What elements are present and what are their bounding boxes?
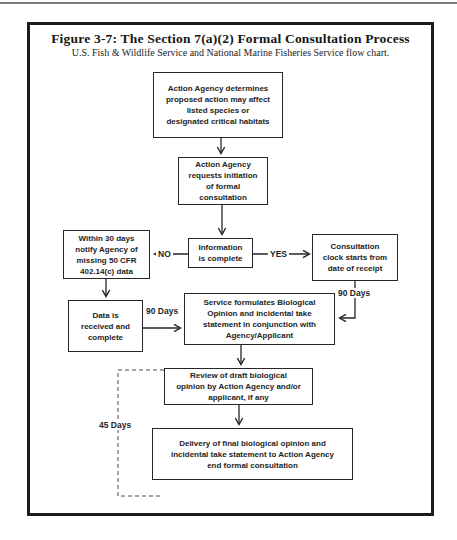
node-review-draft: Review of draft biological opinion by Ac…	[164, 368, 313, 405]
label-90-days-left: 90 Days	[144, 306, 180, 316]
label-45-days: 45 Days	[97, 420, 133, 430]
node-data-received: Data is received and complete	[68, 300, 143, 352]
page-top-rule	[0, 2, 457, 4]
figure-subtitle: U.S. Fish & Wildlife Service and Nationa…	[27, 47, 434, 58]
scanned-page: Figure 3-7: The Section 7(a)(2) Formal C…	[0, 0, 457, 540]
label-yes: YES	[268, 249, 289, 259]
node-consultation-clock: Consultation clock starts from date of r…	[312, 234, 398, 281]
label-no: NO	[156, 249, 173, 259]
node-information-complete: Information is complete	[188, 238, 253, 268]
label-90-days-right: 90 Days	[336, 288, 372, 298]
figure-title: Figure 3-7: The Section 7(a)(2) Formal C…	[27, 31, 434, 47]
node-delivery-final: Delivery of final biological opinion and…	[152, 428, 353, 480]
node-service-formulates: Service formulates Biological Opinion an…	[184, 293, 335, 345]
node-notify-missing-data: Within 30 days notify Agency of missing …	[63, 230, 150, 279]
node-requests-initiation: Action Agency requests initiation of for…	[178, 157, 268, 205]
node-action-determines: Action Agency determines proposed action…	[153, 72, 283, 138]
